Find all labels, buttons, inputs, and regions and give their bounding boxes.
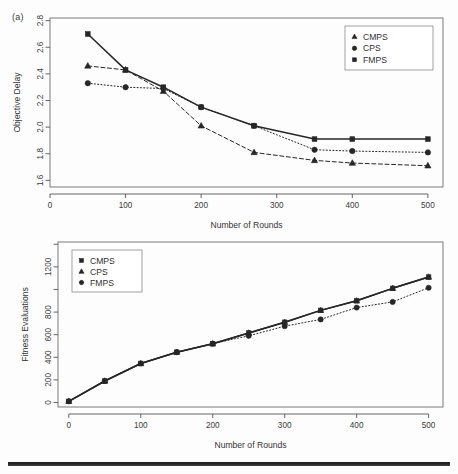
x-tick-label: 300 xyxy=(270,201,284,210)
y-axis-title: Objective Delay xyxy=(12,72,22,133)
y-axis: 02004006008001200 xyxy=(44,244,58,405)
legend-box xyxy=(345,26,433,70)
data-point xyxy=(199,105,204,110)
legend-label-cps: CPS xyxy=(90,267,108,277)
y-tick-label: 200 xyxy=(44,373,53,387)
data-point xyxy=(251,149,257,155)
series-line xyxy=(69,288,429,402)
y-tick-label: 1.6 xyxy=(36,174,45,186)
data-point xyxy=(161,85,166,90)
x-tick-label: 400 xyxy=(345,201,359,210)
objective-delay-plot: 1.61.82.02.22.42.62.80100200300400500Num… xyxy=(0,0,458,232)
y-tick-label: 2.0 xyxy=(36,121,45,133)
data-point xyxy=(85,32,90,37)
series-cps xyxy=(85,81,430,156)
page-bottom-rule xyxy=(8,462,450,466)
y-tick-label: 400 xyxy=(44,350,53,364)
data-point xyxy=(246,333,251,338)
chart-panel-fitness-evaluations: 020040060080012000100200300400500Number … xyxy=(0,232,458,452)
data-point xyxy=(312,147,317,152)
data-point xyxy=(390,299,395,304)
y-axis: 1.61.82.02.22.42.62.8 xyxy=(36,15,50,187)
x-tick-label: 0 xyxy=(67,421,72,430)
legend-marker-fmps xyxy=(353,58,357,62)
x-axis: 0100200300400500 xyxy=(67,414,436,430)
y-tick-label: 2.6 xyxy=(36,41,45,53)
data-point xyxy=(85,63,91,69)
series-line xyxy=(69,277,429,401)
legend: CMPSCPSFMPS xyxy=(72,250,142,292)
x-tick-label: 0 xyxy=(48,201,53,210)
legend-marker-fmps xyxy=(79,280,83,284)
fitness-evaluations-plot: 020040060080012000100200300400500Number … xyxy=(0,232,458,452)
x-axis-title: Number of Rounds xyxy=(210,220,282,230)
y-tick-label: 800 xyxy=(44,305,53,319)
legend: CMPSCPSFMPS xyxy=(345,26,433,70)
x-tick-label: 500 xyxy=(422,421,436,430)
x-axis: 0100200300400500 xyxy=(48,194,435,210)
series-group xyxy=(66,274,432,404)
series-line xyxy=(88,66,428,166)
data-point xyxy=(350,137,355,142)
series-line xyxy=(88,83,428,152)
data-point xyxy=(138,361,143,366)
x-tick-label: 200 xyxy=(194,201,208,210)
data-point xyxy=(349,160,355,166)
series-cmps xyxy=(85,63,431,168)
figure-page: 1.61.82.02.22.42.62.80100200300400500Num… xyxy=(0,0,458,474)
data-point xyxy=(312,137,317,142)
y-tick-label: 0 xyxy=(44,400,53,405)
legend-label-cmps: CMPS xyxy=(363,32,388,42)
x-tick-label: 300 xyxy=(278,421,292,430)
data-point xyxy=(102,378,107,383)
x-tick-label: 100 xyxy=(134,421,148,430)
y-tick-label: 1200 xyxy=(44,257,53,276)
panel-label-a: (a) xyxy=(12,12,24,22)
data-point xyxy=(174,350,179,355)
x-tick-label: 200 xyxy=(206,421,220,430)
series-fmps xyxy=(66,285,431,404)
data-point xyxy=(252,123,257,128)
data-point xyxy=(318,317,323,322)
chart-panel-objective-delay: 1.61.82.02.22.42.62.80100200300400500Num… xyxy=(0,0,458,232)
data-point xyxy=(85,81,90,86)
data-point xyxy=(210,341,215,346)
data-point xyxy=(354,305,359,310)
data-point xyxy=(425,150,430,155)
y-tick-label: 2.8 xyxy=(36,15,45,27)
data-point xyxy=(426,137,431,142)
legend-marker-cmps xyxy=(80,259,84,263)
y-axis-title: Fitness Evaluations xyxy=(20,287,30,362)
data-point xyxy=(123,84,128,89)
data-point xyxy=(123,68,128,73)
legend-label-cps: CPS xyxy=(363,43,381,53)
legend-marker-cps xyxy=(352,46,356,50)
legend-label-fmps: FMPS xyxy=(363,55,387,65)
data-point xyxy=(66,399,71,404)
data-point xyxy=(350,148,355,153)
y-tick-label: 600 xyxy=(44,327,53,341)
y-tick-label: 2.2 xyxy=(36,94,45,106)
y-tick-label: 2.4 xyxy=(36,68,45,80)
x-tick-label: 100 xyxy=(119,201,133,210)
data-point xyxy=(282,324,287,329)
series-line xyxy=(69,277,429,401)
data-point xyxy=(426,285,431,290)
x-tick-label: 400 xyxy=(350,421,364,430)
y-tick-label: 1.8 xyxy=(36,148,45,160)
x-tick-label: 500 xyxy=(421,201,435,210)
legend-label-cmps: CMPS xyxy=(90,256,115,266)
legend-label-fmps: FMPS xyxy=(90,278,114,288)
x-axis-title: Number of Rounds xyxy=(214,440,286,450)
